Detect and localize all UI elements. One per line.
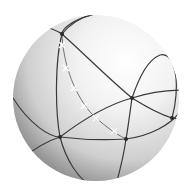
vertex-lower-left	[58, 135, 62, 139]
vertex-top	[60, 32, 64, 36]
sphere	[13, 15, 179, 181]
sphere-diagram	[0, 0, 192, 190]
vertex-far-right	[170, 116, 174, 120]
vertex-right	[130, 96, 134, 100]
vertex-lower-mid	[124, 137, 128, 141]
